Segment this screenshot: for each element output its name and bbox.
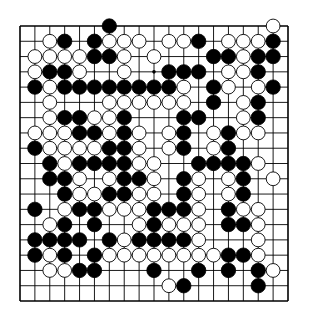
black-stone [206,80,220,94]
black-stone [117,110,131,124]
white-stone [192,248,206,262]
black-stone [102,141,116,155]
black-stone [191,65,205,79]
white-stone [177,248,191,262]
black-stone [117,172,131,186]
white-stone [236,111,250,125]
white-stone [147,172,161,186]
black-stone [251,65,265,79]
black-stone [177,126,191,140]
white-stone [58,50,72,64]
black-stone [57,248,71,262]
white-stone [251,218,265,232]
white-stone [132,157,146,171]
white-stone [207,141,221,155]
white-stone [132,126,146,140]
white-stone [162,141,176,155]
star-point [152,70,156,74]
black-stone [236,217,250,231]
white-stone [132,248,146,262]
white-stone [43,95,57,109]
white-stone [28,50,42,64]
white-stone [236,50,250,64]
white-stone [177,80,191,94]
black-stone [132,233,146,247]
white-stone [147,95,161,109]
black-stone [87,263,101,277]
black-stone [251,49,265,63]
white-stone [236,65,250,79]
black-stone [177,65,191,79]
black-stone [266,34,280,48]
white-stone [58,141,72,155]
black-stone [72,156,86,170]
black-stone [191,34,205,48]
white-stone [102,248,116,262]
white-stone [162,95,176,109]
white-stone [251,248,265,262]
white-stone [58,202,72,216]
black-stone [147,217,161,231]
white-stone [102,202,116,216]
white-stone [251,80,265,94]
white-stone [147,248,161,262]
black-stone [57,110,71,124]
black-stone [102,19,116,33]
white-stone [73,172,87,186]
black-stone [236,187,250,201]
white-stone [222,172,236,186]
black-stone [87,34,101,48]
black-stone [266,80,280,94]
white-stone [162,34,176,48]
black-stone [87,156,101,170]
black-stone [251,110,265,124]
white-stone [192,218,206,232]
white-stone [236,95,250,109]
white-stone [43,264,57,278]
white-stone [132,218,146,232]
white-stone [207,126,221,140]
black-stone [72,233,86,247]
white-stone [251,157,265,171]
black-stone [177,172,191,186]
white-stone [192,172,206,186]
white-stone [117,233,131,247]
black-stone [87,202,101,216]
black-stone [72,126,86,140]
black-stone [251,263,265,277]
white-stone [192,202,206,216]
white-stone [58,264,72,278]
black-stone [87,217,101,231]
white-stone [162,248,176,262]
black-stone [177,233,191,247]
black-stone [221,156,235,170]
black-stone [236,248,250,262]
black-stone [57,34,71,48]
black-stone [206,156,220,170]
black-stone [117,141,131,155]
black-stone [162,80,176,94]
white-stone [73,50,87,64]
black-stone [28,141,42,155]
black-stone [57,217,71,231]
white-stone [132,141,146,155]
white-stone [222,80,236,94]
white-stone [28,126,42,140]
white-stone [88,141,102,155]
black-stone [87,248,101,262]
white-stone [147,187,161,201]
white-stone [88,111,102,125]
black-stone [191,263,205,277]
white-stone [73,65,87,79]
black-stone [132,80,146,94]
black-stone [191,110,205,124]
black-stone [28,80,42,94]
white-stone [43,80,57,94]
white-stone [102,172,116,186]
white-stone [162,279,176,293]
black-stone [43,233,57,247]
white-stone [132,187,146,201]
black-stone [251,95,265,109]
white-stone [43,34,57,48]
white-stone [73,187,87,201]
